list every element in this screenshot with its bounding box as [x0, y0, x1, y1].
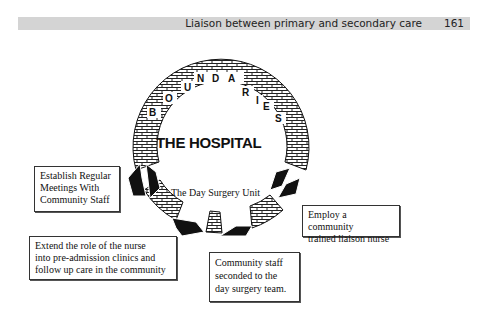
- hospital-title: THE HOSPITAL: [156, 134, 261, 151]
- box-regular-meetings: Establish Regular Meetings With Communit…: [34, 166, 120, 212]
- letter-s: S: [275, 113, 282, 124]
- arrow-extend-role: [172, 218, 204, 236]
- box-line: seconded to the: [215, 269, 294, 282]
- letter-b: B: [149, 107, 156, 118]
- letter-d: D: [212, 73, 219, 84]
- box-line: Meetings With: [40, 182, 114, 194]
- letter-a: A: [228, 73, 235, 84]
- box-liaison-nurse: Employ a community trained liaison nurse: [302, 205, 400, 237]
- box-line: Community Staff: [40, 194, 114, 206]
- box-line: into pre-admission clinics and: [35, 252, 171, 264]
- letter-i: I: [256, 95, 259, 106]
- box-line: Employ a community: [308, 209, 394, 233]
- box-line: Extend the role of the nurse: [35, 240, 171, 252]
- box-line: trained liaison nurse: [308, 233, 394, 245]
- arrow-inward-left: [128, 164, 146, 196]
- letter-e: E: [263, 101, 270, 112]
- arrow-seconded: [220, 226, 252, 236]
- box-community-staff-seconded: Community staff seconded to the day surg…: [209, 252, 300, 302]
- box-extend-nurse-role: Extend the role of the nurse into pre-ad…: [29, 236, 177, 280]
- box-line: Community staff: [215, 256, 294, 269]
- box-line: follow up care in the community: [35, 264, 171, 276]
- letter-r: R: [242, 87, 250, 98]
- day-surgery-unit-label: The Day Surgery Unit: [171, 187, 260, 198]
- box-line: Establish Regular: [40, 170, 114, 182]
- box-line: day surgery team.: [215, 282, 294, 295]
- letter-o: O: [165, 93, 173, 104]
- letter-u: U: [184, 82, 191, 93]
- letter-n: N: [197, 73, 204, 84]
